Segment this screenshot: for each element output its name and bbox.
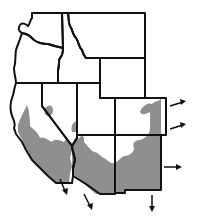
arrow-east-icon (164, 164, 182, 170)
state-oregon (14, 33, 63, 83)
arrow-east-icon (170, 122, 186, 129)
state-wyoming (100, 58, 145, 98)
state-utah (77, 83, 115, 135)
range-map (0, 0, 200, 222)
range-california (18, 105, 72, 183)
state-idaho (58, 13, 100, 83)
arrow-south-icon (149, 195, 155, 212)
state-montana (68, 13, 145, 58)
range-southwest (72, 98, 161, 194)
range-shading (18, 98, 161, 194)
arrow-south-icon (84, 194, 93, 210)
arrow-east-icon (170, 99, 186, 106)
